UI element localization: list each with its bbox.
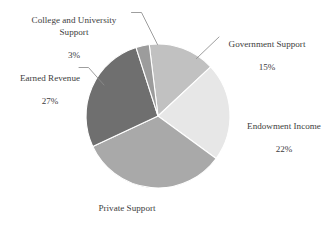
pie-label-government-support-name: Government Support (204, 39, 330, 50)
pie-label-private-support: Private Support 33% (66, 192, 188, 226)
pie-label-earned-revenue-name: Earned Revenue (2, 73, 98, 84)
pie-label-college-and-university-support-value: 3% (8, 50, 140, 61)
pie-label-endowment-income-name: Endowment Income (236, 121, 332, 132)
pie-label-private-support-name: Private Support (66, 203, 188, 214)
pie-label-endowment-income: Endowment Income 22% (236, 110, 332, 167)
pie-label-government-support: Government Support 15% (204, 28, 330, 85)
pie-label-earned-revenue: Earned Revenue 27% (2, 62, 98, 119)
pie-label-earned-revenue-value: 27% (2, 96, 98, 107)
pie-label-government-support-value: 15% (204, 62, 330, 73)
pie-label-endowment-income-value: 22% (236, 144, 332, 155)
pie-chart-figure: College and University Support 3% Govern… (0, 0, 333, 226)
pie-label-college-and-university-support-name: College and University Support (8, 15, 140, 38)
